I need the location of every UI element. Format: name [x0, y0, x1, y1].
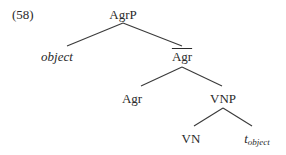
edge-agrp-agrbar: [123, 23, 182, 46]
trace-subscript: object: [248, 137, 270, 147]
node-agrp: AgrP: [109, 8, 136, 22]
node-agr-bar: Agr: [172, 50, 192, 64]
node-object: object: [41, 50, 73, 64]
tree-branches: [0, 0, 286, 155]
node-trace-object: tobject: [244, 132, 270, 149]
node-agr-head: Agr: [122, 92, 142, 106]
edge-vnp-trace: [223, 108, 252, 126]
edge-agrp-object: [67, 23, 123, 46]
node-vnp: VNP: [210, 92, 236, 106]
node-vn: VN: [182, 132, 201, 146]
edge-agrbar-vnp: [182, 67, 222, 86]
edge-agrbar-agr: [141, 67, 182, 86]
edge-vnp-vn: [194, 108, 223, 126]
